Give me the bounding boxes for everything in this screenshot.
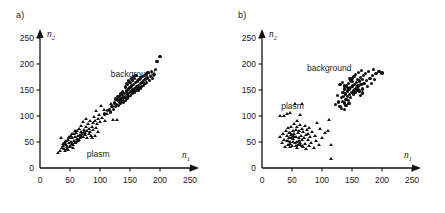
- data-point-plasm: [307, 144, 311, 147]
- data-point-plasm: [298, 113, 302, 116]
- data-point-plasm: [289, 125, 293, 128]
- data-point-plasm: [315, 121, 319, 124]
- data-point-plasm: [90, 136, 94, 139]
- data-point-plasm: [291, 134, 295, 137]
- y-tick-label: 200: [232, 59, 256, 69]
- x-tick-label: 200: [148, 175, 172, 185]
- data-point-plasm: [73, 141, 77, 144]
- x-tick-label: 150: [340, 175, 364, 185]
- y-tick-label: 0: [10, 163, 34, 173]
- x-tick-label: 50: [280, 175, 304, 185]
- data-point-plasm: [317, 143, 321, 146]
- data-point-plasm: [312, 146, 316, 149]
- panel-b-plot-area: 050100150200250050100150200250n2n1backgr…: [262, 38, 412, 168]
- data-point-plasm: [326, 129, 330, 132]
- data-point-plasm: [310, 130, 314, 133]
- panel-a: a) 050100150200250050100150200250n2n1bac…: [0, 0, 222, 213]
- data-point-plasm: [309, 141, 313, 144]
- panel-a-label: a): [16, 10, 24, 20]
- y-axis-label: n2: [269, 29, 277, 41]
- cluster-annotation: background: [307, 63, 351, 73]
- panel-b-label: b): [238, 10, 246, 20]
- y-tick-label: 100: [10, 111, 34, 121]
- data-point-plasm: [79, 124, 83, 127]
- data-point-plasm: [307, 126, 311, 129]
- y-tick-label: 50: [232, 137, 256, 147]
- data-point-plasm: [288, 145, 292, 148]
- data-point-plasm: [83, 131, 87, 134]
- data-point-plasm: [94, 126, 98, 129]
- data-point-plasm: [98, 120, 102, 123]
- data-point-plasm: [314, 139, 318, 142]
- x-axis-label: n1: [182, 150, 190, 162]
- data-point-plasm: [327, 118, 331, 121]
- data-point-plasm: [298, 123, 302, 126]
- data-point-background: [346, 86, 349, 89]
- cluster-annotation: plasm: [87, 149, 110, 159]
- data-point-plasm: [99, 104, 103, 107]
- data-point-background: [380, 71, 383, 74]
- data-point-plasm: [288, 111, 292, 114]
- data-point-plasm: [76, 138, 80, 141]
- data-point-plasm: [304, 147, 308, 150]
- data-point-plasm: [96, 130, 100, 133]
- data-point-plasm: [287, 131, 291, 134]
- data-point-plasm: [329, 157, 333, 160]
- data-point-plasm: [70, 132, 74, 135]
- cluster-annotation: background: [111, 69, 155, 79]
- data-point-plasm: [305, 128, 309, 131]
- data-point-plasm: [115, 118, 119, 121]
- panel-b: b) 050100150200250050100150200250n2n1bac…: [222, 0, 444, 213]
- data-point-plasm: [313, 134, 317, 137]
- y-tick-label: 250: [232, 33, 256, 43]
- data-point-plasm: [318, 127, 322, 130]
- x-tick-label: 50: [58, 175, 82, 185]
- y-tick-label: 50: [10, 137, 34, 147]
- x-tick-label: 250: [400, 175, 424, 185]
- data-point-plasm: [308, 135, 312, 138]
- data-point-plasm: [93, 134, 97, 137]
- data-point-background: [155, 60, 158, 63]
- data-point-plasm: [300, 144, 304, 147]
- y-tick-label: 150: [10, 85, 34, 95]
- x-tick-label: 200: [370, 175, 394, 185]
- data-point-background: [356, 88, 359, 91]
- data-point-background: [114, 97, 117, 100]
- x-axis-label: n1: [404, 150, 412, 162]
- data-point-background: [347, 102, 350, 105]
- data-point-plasm: [73, 129, 77, 132]
- data-point-plasm: [297, 136, 301, 139]
- x-tick-label: 150: [118, 175, 142, 185]
- y-tick-label: 150: [232, 85, 256, 95]
- data-point-plasm: [59, 136, 63, 139]
- x-tick-label: 100: [310, 175, 334, 185]
- cluster-annotation: plasm: [281, 101, 304, 111]
- x-tick-label: 250: [178, 175, 202, 185]
- data-point-plasm: [68, 145, 72, 148]
- x-tick-label: 100: [88, 175, 112, 185]
- y-axis-label: n2: [47, 29, 55, 41]
- data-point-plasm: [67, 135, 71, 138]
- data-point-plasm: [320, 136, 324, 139]
- y-tick-label: 250: [10, 33, 34, 43]
- x-tick-label: 0: [250, 175, 274, 185]
- data-point-plasm: [61, 142, 65, 145]
- data-point-background: [362, 82, 365, 85]
- data-point-plasm: [300, 127, 304, 130]
- data-point-plasm: [94, 109, 98, 112]
- data-point-plasm: [283, 145, 287, 148]
- y-tick-label: 100: [232, 111, 256, 121]
- data-point-plasm: [81, 120, 85, 123]
- data-point-plasm: [79, 134, 83, 137]
- x-tick-label: 0: [28, 175, 52, 185]
- y-tick-label: 200: [10, 59, 34, 69]
- panel-a-plot-area: 050100150200250050100150200250n2n1backgr…: [40, 38, 190, 168]
- data-point-plasm: [102, 108, 106, 111]
- data-point-plasm: [280, 141, 284, 144]
- data-point-plasm: [329, 143, 333, 146]
- figure-container: a) 050100150200250050100150200250n2n1bac…: [0, 0, 445, 213]
- data-point-background: [368, 77, 371, 80]
- data-point-plasm: [103, 119, 107, 122]
- y-tick-label: 0: [232, 163, 256, 173]
